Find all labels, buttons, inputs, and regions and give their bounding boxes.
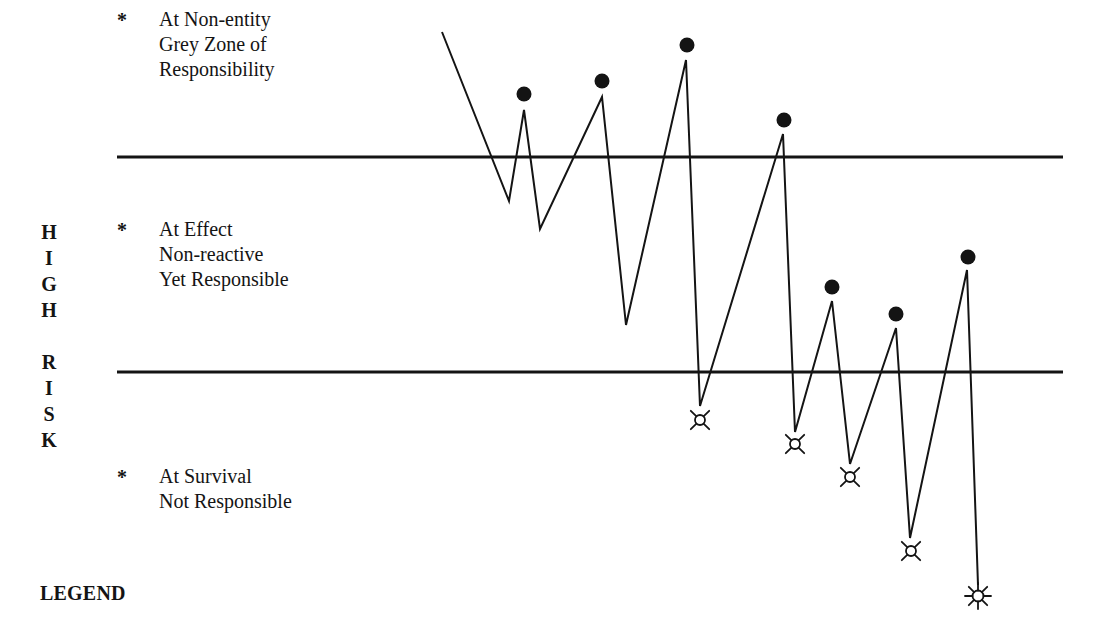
- filled-dot-icon: [961, 250, 976, 265]
- filled-dot-icon: [680, 38, 695, 53]
- valley-markers: [691, 411, 920, 560]
- four-ray-star-icon: [691, 411, 709, 429]
- sun-icon: [965, 583, 991, 609]
- zone-non-entity-line-1: At Non-entity: [159, 7, 275, 32]
- zone-effect-line-3: Yet Responsible: [159, 267, 289, 292]
- zone-survival-marker: *: [117, 466, 127, 488]
- risk-zigzag-diagram: [0, 0, 1095, 636]
- peak-markers: [517, 38, 976, 322]
- title-letter: R: [38, 349, 60, 375]
- zone-non-entity-line-2: Grey Zone of: [159, 32, 275, 57]
- title-letter: I: [38, 375, 60, 401]
- high-risk-vertical-title: H I G H R I S K: [38, 219, 60, 453]
- title-letter: I: [38, 245, 60, 271]
- title-letter: K: [38, 427, 60, 453]
- zone-survival-line-1: At Survival: [159, 464, 292, 489]
- filled-dot-icon: [777, 113, 792, 128]
- title-letter: S: [38, 401, 60, 427]
- zone-effect-line-2: Non-reactive: [159, 242, 289, 267]
- four-ray-star-icon: [902, 542, 920, 560]
- title-gap: [38, 323, 60, 349]
- four-ray-star-icon: [841, 468, 859, 486]
- zone-effect-label: At Effect Non-reactive Yet Responsible: [159, 217, 289, 292]
- zone-survival-label: At Survival Not Responsible: [159, 464, 292, 514]
- zone-non-entity-marker: *: [117, 9, 127, 31]
- legend-title: LEGEND: [40, 582, 126, 605]
- filled-dot-icon: [825, 280, 840, 295]
- zone-survival-line-2: Not Responsible: [159, 489, 292, 514]
- end-marker: [965, 583, 991, 609]
- filled-dot-icon: [517, 87, 532, 102]
- title-letter: H: [38, 297, 60, 323]
- title-letter: G: [38, 271, 60, 297]
- zone-effect-line-1: At Effect: [159, 217, 289, 242]
- zone-non-entity-label: At Non-entity Grey Zone of Responsibilit…: [159, 7, 275, 82]
- four-ray-star-icon: [786, 435, 804, 453]
- filled-dot-icon: [889, 307, 904, 322]
- filled-dot-icon: [595, 74, 610, 89]
- title-letter: H: [38, 219, 60, 245]
- zone-non-entity-line-3: Responsibility: [159, 57, 275, 82]
- zone-effect-marker: *: [117, 219, 127, 241]
